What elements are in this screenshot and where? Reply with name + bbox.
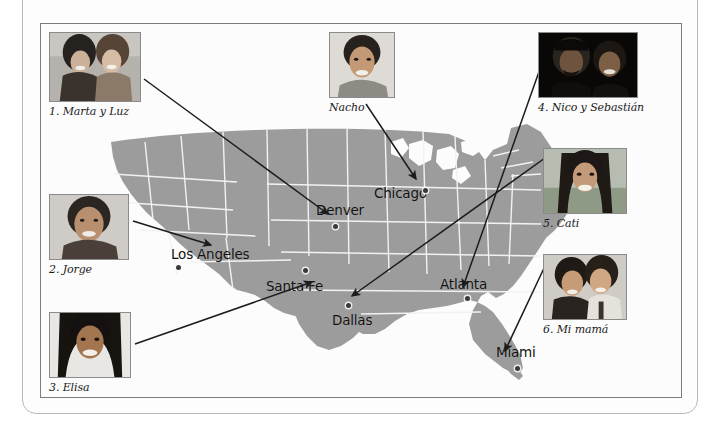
leader-marta-y-luz-to-denver bbox=[144, 79, 328, 214]
city-label-dallas: Dallas bbox=[332, 312, 372, 328]
callout-nacho[interactable]: Nacho bbox=[329, 32, 395, 114]
callout-cati[interactable]: 5. Cati bbox=[543, 148, 627, 230]
caption-cati: 5. Cati bbox=[543, 217, 627, 230]
caption-marta-y-luz: 1. Marta y Luz bbox=[49, 105, 141, 118]
callout-mi-mama[interactable]: 6. Mi mamá bbox=[543, 254, 627, 336]
caption-nico-y-sebastian: 4. Nico y Sebastián bbox=[538, 101, 644, 114]
city-dot-los-angeles bbox=[176, 265, 181, 270]
city-dot-dallas bbox=[346, 303, 351, 308]
caption-nacho: Nacho bbox=[329, 101, 395, 114]
photo-marta-y-luz[interactable] bbox=[49, 32, 141, 102]
city-label-los-angeles: Los Angeles bbox=[171, 246, 249, 262]
leader-nico-y-sebastian-to-atlanta bbox=[463, 66, 541, 287]
city-label-santa-fe: Santa Fe bbox=[266, 278, 323, 294]
city-dot-denver bbox=[333, 224, 338, 229]
callout-elisa[interactable]: 3. Elisa bbox=[49, 312, 131, 394]
city-label-miami: Miami bbox=[496, 344, 536, 360]
callout-jorge[interactable]: 2. Jorge bbox=[49, 194, 129, 276]
city-label-denver: Denver bbox=[316, 202, 364, 218]
city-dot-santa-fe bbox=[303, 268, 308, 273]
city-label-atlanta: Atlanta bbox=[440, 276, 487, 292]
leader-nacho-to-chicago bbox=[366, 104, 416, 179]
photo-elisa[interactable] bbox=[49, 312, 131, 378]
callout-nico-y-sebastian[interactable]: 4. Nico y Sebastián bbox=[538, 32, 644, 114]
city-label-chicago: Chicago bbox=[374, 185, 427, 201]
photo-cati[interactable] bbox=[543, 148, 627, 214]
city-dot-chicago bbox=[423, 188, 428, 193]
photo-nico-y-sebastian[interactable] bbox=[538, 32, 638, 98]
figure-page: Denver Chicago Los Angeles Santa Fe Dall… bbox=[0, 0, 717, 442]
city-dot-miami bbox=[515, 366, 520, 371]
photo-jorge[interactable] bbox=[49, 194, 129, 260]
leader-mi-mama-to-miami bbox=[505, 266, 545, 351]
photo-mi-mama[interactable] bbox=[543, 254, 627, 320]
caption-mi-mama: 6. Mi mamá bbox=[543, 323, 627, 336]
callout-marta-y-luz[interactable]: 1. Marta y Luz bbox=[49, 32, 141, 118]
leader-jorge-to-los-angeles bbox=[133, 221, 211, 245]
caption-elisa: 3. Elisa bbox=[49, 381, 131, 394]
caption-jorge: 2. Jorge bbox=[49, 263, 129, 276]
photo-nacho[interactable] bbox=[329, 32, 395, 98]
city-dot-atlanta bbox=[465, 296, 470, 301]
figure-panel: Denver Chicago Los Angeles Santa Fe Dall… bbox=[40, 23, 682, 398]
